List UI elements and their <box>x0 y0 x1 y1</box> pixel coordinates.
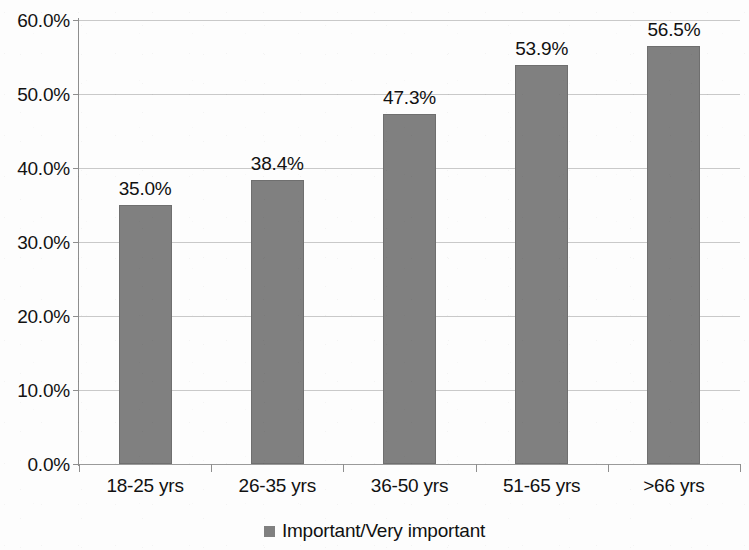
x-axis-tick-mark <box>211 464 212 472</box>
bar-chart: 0.0%10.0%20.0%30.0%40.0%50.0%60.0% 35.0%… <box>0 0 749 550</box>
chart-legend: Important/Very important <box>0 521 749 541</box>
x-axis-category-label: 36-50 yrs <box>340 476 480 496</box>
gridline <box>79 464 740 465</box>
x-axis-tick-mark <box>608 464 609 472</box>
bar-value-label: 47.3% <box>360 88 460 107</box>
x-axis-tick-mark <box>79 464 80 472</box>
y-axis-tick-label: 40.0% <box>0 159 70 178</box>
bar-value-label: 56.5% <box>624 20 724 39</box>
x-axis-category-label: 18-25 yrs <box>75 476 215 496</box>
x-axis-tick-mark <box>343 464 344 472</box>
y-axis-tick-label: 20.0% <box>0 307 70 326</box>
legend-entry-label: Important/Very important <box>282 521 485 541</box>
legend-swatch-icon <box>264 526 275 537</box>
y-axis-tick-label: 0.0% <box>0 455 70 474</box>
bar <box>647 46 700 464</box>
bar-value-label: 35.0% <box>95 179 195 198</box>
bar <box>251 180 304 464</box>
x-axis-tick-mark <box>740 464 741 472</box>
bar <box>119 205 172 464</box>
y-axis-tick-label: 50.0% <box>0 85 70 104</box>
x-axis-category-label: 51-65 yrs <box>472 476 612 496</box>
bar <box>383 114 436 464</box>
y-axis-tick-label: 60.0% <box>0 11 70 30</box>
bar-value-label: 53.9% <box>492 39 592 58</box>
y-axis-tick-label: 10.0% <box>0 381 70 400</box>
x-axis-category-label: >66 yrs <box>604 476 744 496</box>
x-axis-tick-mark <box>476 464 477 472</box>
y-axis-tick-label: 30.0% <box>0 233 70 252</box>
bar-value-label: 38.4% <box>227 154 327 173</box>
x-axis-category-label: 26-35 yrs <box>207 476 347 496</box>
bar <box>515 65 568 464</box>
